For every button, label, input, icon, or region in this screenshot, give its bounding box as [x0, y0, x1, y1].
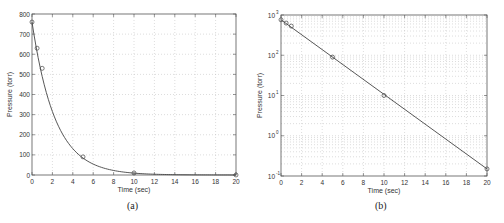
- y-tick-label: 500: [19, 71, 30, 78]
- y-tick-exponent: 1: [276, 90, 279, 95]
- y-tick-label: 700: [19, 31, 30, 38]
- y-tick-label: 800: [19, 11, 30, 18]
- x-tick-label: 20: [483, 179, 491, 186]
- x-tick-label: 4: [71, 178, 75, 185]
- y-axis-label: Pressure (torr): [256, 73, 264, 118]
- x-tick-label: 8: [112, 178, 116, 185]
- y-tick-label: 10: [268, 173, 276, 180]
- x-tick-label: 18: [212, 178, 220, 185]
- y-tick-label: 300: [19, 111, 30, 118]
- y-tick-label: 10: [268, 12, 276, 19]
- x-tick-label: 2: [300, 179, 304, 186]
- y-tick-exponent: 2: [276, 50, 279, 55]
- y-tick-label: 10: [268, 92, 276, 99]
- caption-b: (b): [375, 200, 387, 211]
- x-tick-label: 0: [279, 179, 283, 186]
- y-tick-label: 10: [268, 52, 276, 59]
- grid: [32, 14, 236, 175]
- x-tick-label: 10: [130, 178, 138, 185]
- x-tick-label: 16: [192, 178, 200, 185]
- y-tick-exponent: 3: [276, 10, 279, 15]
- chart-b: 0246810121416182010-1100101102103Time (s…: [252, 0, 504, 223]
- x-tick-label: 0: [30, 178, 34, 185]
- caption-a: (a): [127, 200, 138, 211]
- y-tick-label: 400: [19, 91, 30, 98]
- y-tick-label: 200: [19, 131, 30, 138]
- y-tick-label: 600: [19, 51, 30, 58]
- x-axis-label: Time (sec): [118, 186, 151, 194]
- y-tick-label: 10: [268, 132, 276, 139]
- x-tick-label: 2: [51, 178, 55, 185]
- y-tick-label: 0: [26, 172, 30, 179]
- x-tick-label: 14: [171, 178, 179, 185]
- linear-pressure-plot: 0246810121416182001002003004005006007008…: [0, 0, 250, 200]
- x-tick-label: 14: [422, 179, 430, 186]
- x-tick-label: 20: [232, 178, 240, 185]
- x-tick-label: 12: [401, 179, 409, 186]
- x-tick-label: 6: [91, 178, 95, 185]
- x-tick-label: 16: [442, 179, 450, 186]
- log-pressure-plot: 0246810121416182010-1100101102103Time (s…: [252, 0, 504, 200]
- y-tick-label: 100: [19, 151, 30, 158]
- y-tick-exponent: 0: [276, 130, 279, 135]
- x-axis-label: Time (sec): [368, 187, 401, 195]
- y-tick-exponent: -1: [276, 171, 280, 176]
- grid: [281, 15, 487, 176]
- x-tick-label: 10: [380, 179, 388, 186]
- chart-a: 0246810121416182001002003004005006007008…: [0, 0, 250, 223]
- x-tick-label: 6: [341, 179, 345, 186]
- x-tick-label: 18: [463, 179, 471, 186]
- x-tick-label: 8: [362, 179, 366, 186]
- y-axis-label: Pressure (torr): [6, 72, 14, 117]
- x-tick-label: 12: [151, 178, 159, 185]
- x-tick-label: 4: [320, 179, 324, 186]
